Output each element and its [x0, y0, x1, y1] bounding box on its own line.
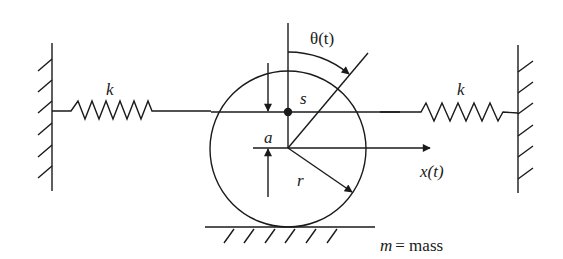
- label-mass-legend: m= mass: [380, 236, 443, 255]
- label-r: r: [297, 171, 304, 190]
- label-spring-right-k: k: [457, 80, 465, 99]
- point-mass-dot: [284, 108, 292, 116]
- left-wall: [38, 43, 52, 191]
- label-spring-left-k: k: [106, 80, 114, 99]
- label-x-t: x(t): [419, 162, 444, 181]
- label-theta: θ(t): [310, 29, 334, 48]
- left-spring: [52, 101, 211, 119]
- right-wall: [518, 45, 533, 193]
- diagram-svg: k k θ(t) s a r x(t) m= mass: [0, 0, 563, 259]
- label-mass-eq: = mass: [395, 236, 443, 255]
- label-s: s: [300, 89, 307, 108]
- theta-arc-arrow: [288, 52, 349, 74]
- label-a: a: [264, 128, 273, 147]
- right-spring: [380, 103, 518, 121]
- label-mass-m: m: [380, 236, 392, 255]
- diagram-canvas: k k θ(t) s a r x(t) m= mass: [0, 0, 563, 259]
- ground: [205, 227, 375, 243]
